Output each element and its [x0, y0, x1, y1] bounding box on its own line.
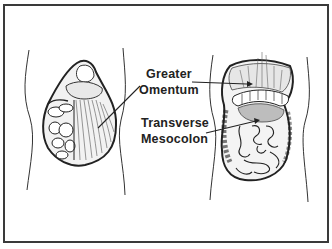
right-abdominal-cavity — [222, 52, 293, 180]
label-greater: Greater — [146, 67, 192, 82]
label-mesocolon: Mesocolon — [141, 132, 208, 147]
left-abdominal-cavity — [43, 61, 116, 166]
label-transverse: Transverse — [141, 116, 209, 131]
label-omentum: Omentum — [139, 83, 199, 98]
